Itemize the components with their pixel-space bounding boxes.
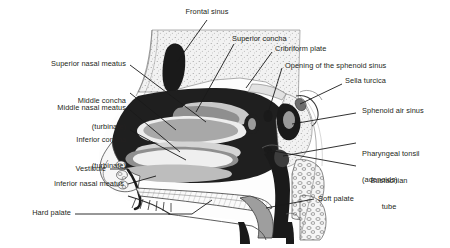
label-hard-palate: Hard palate xyxy=(0,209,71,218)
label-superior-nasal-meatus: Superior nasal meatus xyxy=(0,60,126,69)
label-opening-sphenoid-sinus: Opening of the sphenoid sinus xyxy=(285,62,386,71)
label-sphenoid-air-sinus: Sphenoid air sinus xyxy=(362,107,424,116)
label-middle-concha-line1: Middle concha xyxy=(0,97,126,106)
label-eustachian-tube-line2: tube xyxy=(360,203,418,212)
label-eustachian-tube-line1: Eustachian xyxy=(360,177,418,186)
label-superior-concha: Superior concha xyxy=(232,35,287,44)
label-soft-palate: Soft palate xyxy=(318,195,354,204)
label-inferior-concha-line2: (turbinate) xyxy=(0,162,126,171)
label-frontal-sinus: Frontal sinus xyxy=(176,8,238,17)
label-eustachian-tube: Eustachian tube xyxy=(360,160,418,229)
label-cribriform-plate: Cribriform plate xyxy=(275,45,326,54)
label-middle-concha-line2: (turbinate) xyxy=(0,123,126,132)
label-pharyngeal-tonsil-line1: Pharyngeal tonsil xyxy=(362,150,420,159)
label-sella-turcica: Sella turcica xyxy=(345,77,386,86)
label-middle-concha: Middle concha (turbinate) xyxy=(0,80,126,149)
anatomy-figure: Frontal sinus Superior concha Cribriform… xyxy=(0,0,450,248)
